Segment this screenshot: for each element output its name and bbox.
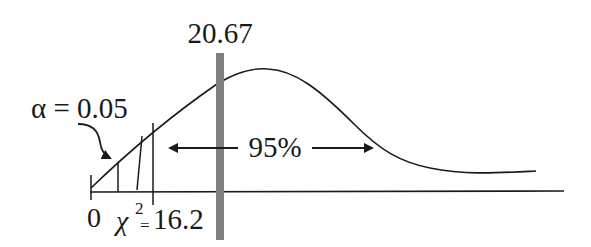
alpha-pointer-arrow: [78, 124, 110, 158]
alpha-label: α = 0.05: [31, 92, 128, 124]
critical-value-label: 20.67: [187, 17, 252, 49]
origin-label: 0: [87, 202, 101, 233]
percent-label: 95%: [248, 131, 301, 163]
chi-equals: =: [140, 216, 150, 235]
critical-value-bar: [216, 53, 224, 240]
distribution-curve: [91, 69, 536, 188]
chi-square-diagram: 20.67 α = 0.05 95% 0 χ 2 = 16.2: [0, 0, 591, 247]
chi-value-label: 16.2: [153, 203, 204, 235]
x-axis-baseline: [90, 191, 564, 192]
chi-symbol: χ: [113, 205, 129, 236]
